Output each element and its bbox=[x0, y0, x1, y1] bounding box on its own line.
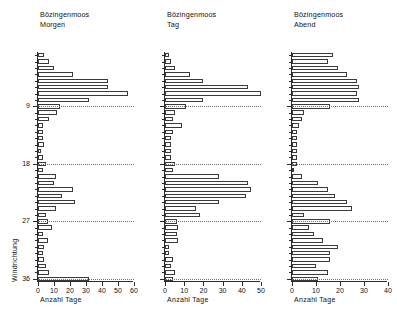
bar bbox=[38, 53, 44, 57]
y-axis-tick-minor bbox=[162, 94, 165, 95]
bar bbox=[292, 200, 347, 204]
y-axis-tick-minor bbox=[35, 170, 38, 171]
bar bbox=[292, 168, 294, 172]
bar bbox=[165, 168, 173, 172]
reference-line bbox=[38, 221, 134, 222]
bar bbox=[292, 213, 304, 217]
y-axis-tick-minor bbox=[289, 189, 292, 190]
bar bbox=[38, 194, 62, 198]
bar bbox=[38, 232, 43, 236]
y-axis-tick-minor bbox=[35, 266, 38, 267]
bar bbox=[165, 155, 171, 159]
y-axis-tick-minor bbox=[162, 157, 165, 158]
x-axis-tick-label: 40 bbox=[377, 287, 397, 294]
x-axis-tick bbox=[70, 282, 71, 286]
y-axis-tick-minor bbox=[35, 253, 38, 254]
bar bbox=[165, 270, 175, 274]
bar bbox=[292, 66, 338, 70]
y-axis-tick-minor bbox=[35, 87, 38, 88]
y-axis-tick-minor bbox=[289, 196, 292, 197]
x-axis-tick bbox=[86, 282, 87, 286]
bar bbox=[38, 155, 43, 159]
plot-area-morgen: 91827360102030405060 bbox=[37, 52, 133, 282]
bar bbox=[165, 72, 190, 76]
bar bbox=[292, 130, 297, 134]
bar bbox=[38, 257, 44, 261]
y-axis-tick-minor bbox=[289, 68, 292, 69]
y-axis-tick-minor bbox=[289, 113, 292, 114]
y-axis-tick-minor bbox=[289, 81, 292, 82]
y-axis-tick-minor bbox=[289, 87, 292, 88]
bar bbox=[292, 245, 338, 249]
panel-abend-station: Bözingenmoos bbox=[294, 10, 343, 19]
x-axis-tick bbox=[340, 282, 341, 286]
bar-group-morgen bbox=[38, 52, 133, 281]
bar bbox=[292, 270, 328, 274]
y-axis-tick-minor bbox=[35, 234, 38, 235]
y-axis-tick-minor bbox=[35, 196, 38, 197]
x-axis-title-tag: Anzahl Tage bbox=[167, 296, 209, 303]
bar bbox=[38, 85, 108, 89]
bar bbox=[38, 251, 43, 255]
y-axis-tick-minor bbox=[162, 247, 165, 248]
y-axis-tick-minor bbox=[289, 138, 292, 139]
x-axis-tick bbox=[203, 282, 204, 286]
y-axis-tick-minor bbox=[289, 94, 292, 95]
bar bbox=[38, 149, 41, 153]
y-axis-tick-minor bbox=[162, 189, 165, 190]
y-axis-tick-minor bbox=[289, 157, 292, 158]
bar bbox=[165, 79, 203, 83]
y-axis-tick-minor bbox=[162, 253, 165, 254]
y-axis-tick-label: 18 bbox=[4, 160, 30, 167]
y-axis-tick-minor bbox=[162, 215, 165, 216]
y-axis-tick-minor bbox=[162, 170, 165, 171]
y-axis-tick-minor bbox=[289, 74, 292, 75]
bar bbox=[292, 123, 299, 127]
x-axis-tick-label: 60 bbox=[123, 287, 145, 294]
y-axis-tick-minor bbox=[162, 81, 165, 82]
y-axis-tick-minor bbox=[289, 228, 292, 229]
bar bbox=[38, 200, 75, 204]
reference-line bbox=[292, 279, 388, 280]
y-axis-tick-minor bbox=[289, 151, 292, 152]
bar bbox=[165, 117, 173, 121]
bar bbox=[38, 130, 43, 134]
bar bbox=[292, 117, 302, 121]
y-axis-tick-minor bbox=[35, 151, 38, 152]
bar bbox=[292, 232, 314, 236]
y-axis-tick-minor bbox=[162, 272, 165, 273]
y-axis-tick-minor bbox=[289, 234, 292, 235]
bar-group-abend bbox=[292, 52, 387, 281]
bar bbox=[38, 213, 46, 217]
bar bbox=[165, 225, 178, 229]
y-axis-tick-minor bbox=[289, 62, 292, 63]
bar bbox=[292, 187, 328, 191]
bar bbox=[165, 85, 248, 89]
y-axis-tick-minor bbox=[35, 183, 38, 184]
y-axis-tick-minor bbox=[35, 215, 38, 216]
y-axis-tick-minor bbox=[35, 125, 38, 126]
y-axis-tick-minor bbox=[289, 170, 292, 171]
y-axis-tick-minor bbox=[162, 74, 165, 75]
bar bbox=[165, 59, 171, 63]
bar bbox=[38, 245, 44, 249]
x-axis-tick-label: 20 bbox=[329, 287, 351, 294]
x-axis-tick-label: 0 bbox=[281, 287, 303, 294]
bar bbox=[292, 85, 359, 89]
y-axis-tick-minor bbox=[162, 209, 165, 210]
x-axis-title-abend: Anzahl Tage bbox=[294, 296, 336, 303]
bar bbox=[292, 59, 328, 63]
bar bbox=[38, 136, 43, 140]
y-axis-tick-minor bbox=[35, 157, 38, 158]
x-axis-tick-label: 50 bbox=[250, 287, 272, 294]
x-axis-tick bbox=[223, 282, 224, 286]
y-axis-tick-minor bbox=[289, 202, 292, 203]
bar bbox=[38, 181, 54, 185]
x-axis-tick bbox=[54, 282, 55, 286]
bar bbox=[165, 187, 251, 191]
bar bbox=[292, 98, 359, 102]
reference-line bbox=[38, 164, 134, 165]
y-axis-tick-minor bbox=[35, 81, 38, 82]
bar bbox=[165, 66, 175, 70]
y-axis-tick-minor bbox=[289, 100, 292, 101]
